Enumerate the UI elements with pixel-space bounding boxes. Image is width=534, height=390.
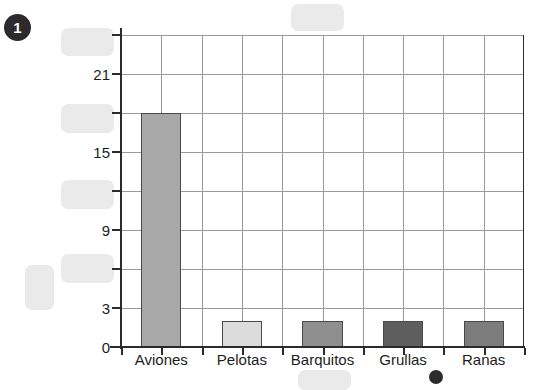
bar-pelotas [222, 321, 262, 347]
y-axis-label-15: 15 [76, 144, 110, 161]
footer-dot-marker [429, 370, 443, 384]
x-axis-tick [443, 348, 445, 355]
y-axis-line [120, 28, 122, 349]
y-axis-label-0: 0 [76, 339, 110, 356]
y-axis-tick [112, 34, 121, 36]
x-axis-label-aviones: Aviones [135, 351, 188, 368]
x-axis-tick [121, 348, 123, 355]
x-axis-label-ranas: Ranas [462, 351, 505, 368]
plot-right-border [523, 35, 524, 347]
x-axis-tick [524, 348, 526, 355]
x-axis-label-barquitos: Barquitos [291, 351, 354, 368]
bar-grullas [383, 321, 423, 347]
x-axis-tick [282, 348, 284, 355]
y-axis-label-3: 3 [76, 300, 110, 317]
y-axis-tick [112, 346, 121, 348]
y-axis-tick [112, 112, 121, 114]
x-axis-tick [202, 348, 204, 355]
x-axis-tick [363, 348, 365, 355]
x-axis-label-pelotas: Pelotas [217, 351, 267, 368]
y-axis-label-21: 21 [76, 66, 110, 83]
bar-ranas [464, 321, 504, 347]
bar-aviones [141, 113, 181, 347]
gridline-vertical [484, 35, 485, 347]
x-axis-line [110, 346, 525, 348]
gridline-vertical [323, 35, 324, 347]
bar-barquitos [302, 321, 342, 347]
plot-area [121, 35, 524, 347]
gridline-vertical [282, 35, 283, 347]
y-axis-label-9: 9 [76, 222, 110, 239]
gridline-vertical [403, 35, 404, 347]
y-axis-tick [112, 307, 121, 309]
gridline-vertical [363, 35, 364, 347]
y-axis-tick [112, 73, 121, 75]
gridline-vertical [242, 35, 243, 347]
gridline-vertical [443, 35, 444, 347]
x-axis-label-grullas: Grullas [379, 351, 427, 368]
y-axis-tick [112, 229, 121, 231]
gridline-vertical [202, 35, 203, 347]
y-axis-tick [112, 268, 121, 270]
y-axis-tick [112, 151, 121, 153]
y-axis-tick [112, 190, 121, 192]
